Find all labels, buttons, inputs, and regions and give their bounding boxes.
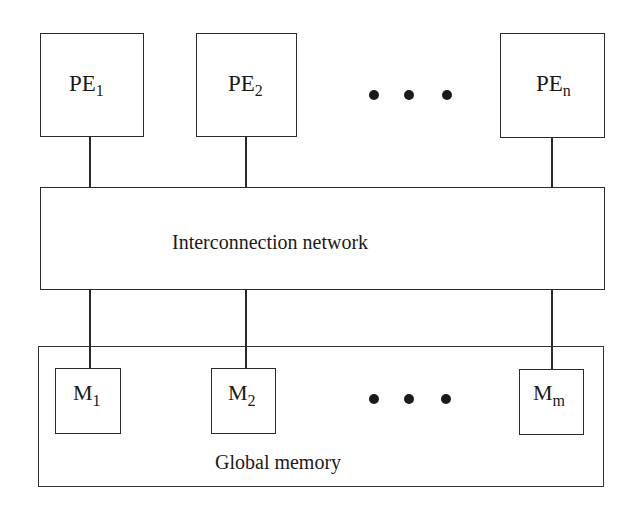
ellipsis-dot-icon (442, 90, 452, 100)
ellipsis-dot-icon (369, 90, 379, 100)
m2-sub: 2 (248, 392, 256, 409)
connector-pe2-network (245, 137, 247, 188)
pe1-sub: 1 (96, 82, 104, 99)
memory-m2-label: M2 (228, 382, 256, 404)
global-memory-label: Global memory (215, 452, 341, 472)
processor-pe2-label: PE2 (228, 72, 263, 95)
processor-pen-label: PEn (536, 72, 571, 95)
memory-m1-label: M1 (73, 382, 101, 404)
pen-sub: n (563, 82, 571, 99)
pe2-sub: 2 (255, 82, 263, 99)
pe1-base: PE (69, 71, 96, 96)
connector-pe1-network (89, 137, 91, 188)
pen-base: PE (536, 71, 563, 96)
mm-sub: m (553, 392, 565, 409)
ellipsis-dot-icon (369, 394, 379, 404)
mm-base: M (533, 380, 553, 405)
ellipsis-dot-icon (441, 394, 451, 404)
processor-pe1-label: PE1 (69, 72, 104, 95)
interconnection-network-label: Interconnection network (172, 232, 368, 252)
pe2-base: PE (228, 71, 255, 96)
ellipsis-dot-icon (404, 90, 414, 100)
m1-base: M (73, 380, 93, 405)
ellipsis-dot-icon (404, 394, 414, 404)
m1-sub: 1 (93, 392, 101, 409)
memory-mm-label: Mm (533, 382, 565, 404)
connector-pen-network (551, 138, 553, 188)
m2-base: M (228, 380, 248, 405)
